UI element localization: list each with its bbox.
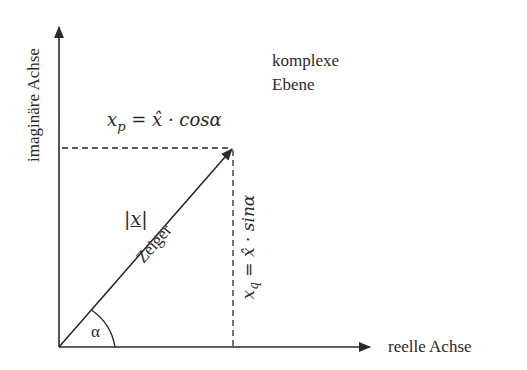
- x-axis-label: reelle Achse: [388, 337, 472, 357]
- plane-title-line2: Ebene: [272, 75, 314, 95]
- phasor-diagram: [0, 0, 527, 370]
- magnitude-symbol: x: [130, 207, 141, 229]
- projection-x-rhs: = x̂ · cosα: [125, 109, 221, 130]
- angle-label: α: [91, 322, 100, 342]
- plane-title-line1: komplexe: [272, 51, 339, 71]
- projection-y-rhs: = x̂ · sinα: [238, 195, 258, 282]
- y-axis-label: imaginäre Achse: [24, 35, 44, 175]
- projection-y-var: x: [238, 290, 258, 300]
- projection-y-formula: xq = x̂ · sinα: [238, 167, 261, 327]
- projection-x-formula: xp = x̂ · cosα: [107, 109, 222, 134]
- projection-x-var: x: [107, 109, 117, 130]
- projection-y-sub: q: [247, 282, 261, 290]
- magnitude-label: |x|: [124, 207, 148, 229]
